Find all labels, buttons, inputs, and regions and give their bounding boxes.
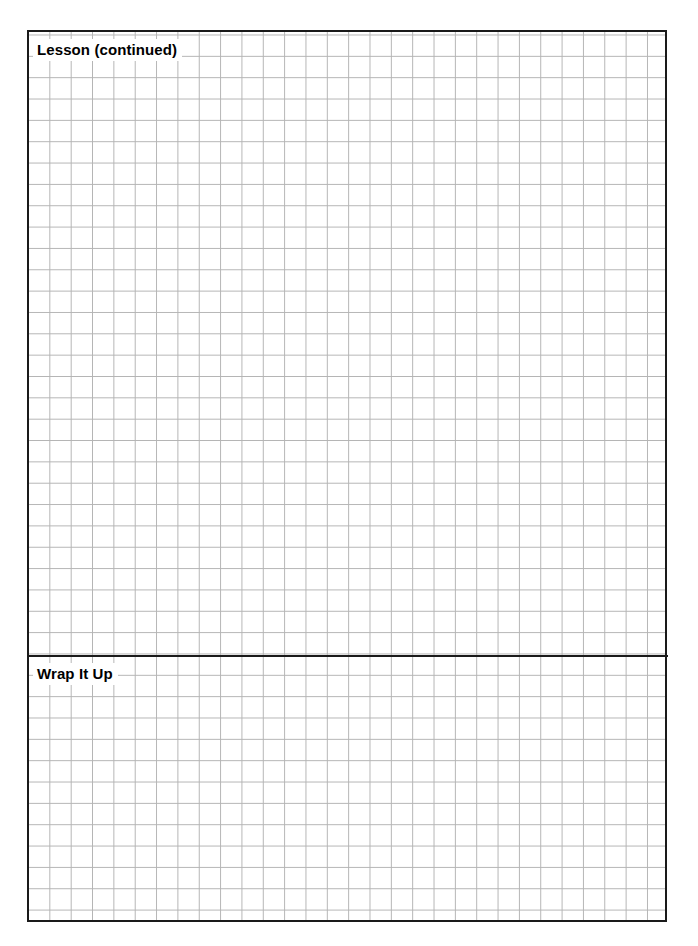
- section-divider: [27, 655, 668, 657]
- graph-paper-grid: [29, 32, 665, 920]
- worksheet-frame: Lesson (continued) Wrap It Up: [27, 30, 667, 922]
- section-heading-lesson-continued: Lesson (continued): [33, 39, 182, 61]
- section-heading-wrap-it-up: Wrap It Up: [33, 663, 118, 685]
- worksheet-page: Lesson (continued) Wrap It Up: [0, 0, 698, 946]
